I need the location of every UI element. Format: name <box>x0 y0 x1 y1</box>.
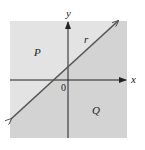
x-axis-label: x <box>130 73 136 85</box>
y-axis-label: y <box>65 7 71 19</box>
origin-label: 0 <box>61 82 66 93</box>
region-q-label: Q <box>92 104 100 116</box>
line-r-label: r <box>84 33 89 45</box>
region-p-label: P <box>33 46 41 58</box>
coordinate-diagram: y x 0 r P Q <box>0 0 145 150</box>
